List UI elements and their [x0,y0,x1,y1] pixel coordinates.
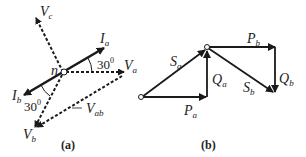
label-pa: Pa [183,103,198,120]
panel-b: Sa Pa Qa Pb Qb Sb (b) [139,31,295,152]
angle-label-b: 300 [24,98,41,114]
label-ib: Ib [11,88,22,105]
origin-node [139,95,144,100]
label-sa: Sa [170,54,182,71]
angle-arc-b [41,85,50,96]
caption-a: (a) [61,138,75,152]
label-vab: Vab [86,101,104,118]
vector-vab [37,76,122,127]
junction-node [205,45,210,50]
label-vb: Vb [23,127,37,144]
label-qb: Qb [279,71,294,88]
label-vc: Vc [40,4,53,21]
label-qa: Qa [212,72,227,89]
label-va: Va [124,58,138,75]
label-ia: Ia [99,31,110,48]
panel-a: Vc Ia Va n Ib Vb Vab 300 300 (a) [11,4,138,152]
angle-label-a: 300 [97,56,114,72]
label-n: n [51,63,58,78]
phasor-diagram-canvas: Vc Ia Va n Ib Vb Vab 300 300 (a) Sa Pa Q… [0,0,306,157]
caption-b: (b) [201,138,216,152]
label-sb: Sb [243,80,255,97]
vector-vc [36,18,63,72]
angle-arc-a [88,58,92,72]
node-n [61,69,67,75]
label-pb: Pb [246,31,261,48]
